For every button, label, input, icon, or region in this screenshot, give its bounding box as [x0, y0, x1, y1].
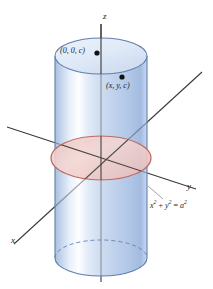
point-label-top-center: (0, 0, c)	[60, 47, 85, 55]
cylinder-equation-label: x2 + y2 = a2	[150, 200, 187, 210]
point-label-top-rim: (x, y, c)	[106, 82, 130, 90]
equation-leader-line	[148, 186, 163, 199]
y-axis-label: y	[187, 182, 191, 191]
eq-plus: +	[156, 201, 165, 210]
top-rim-point-dot	[119, 74, 124, 79]
diagram-canvas	[0, 0, 213, 289]
top-center-point-dot	[94, 50, 99, 55]
eq-a-exp: 2	[184, 199, 187, 205]
z-axis-label: z	[103, 12, 107, 21]
eq-equals: =	[171, 201, 180, 210]
cylinder-diagram: z y x (0, 0, c) (x, y, c) x2 + y2 = a2	[0, 0, 213, 289]
x-axis-label: x	[11, 236, 15, 245]
